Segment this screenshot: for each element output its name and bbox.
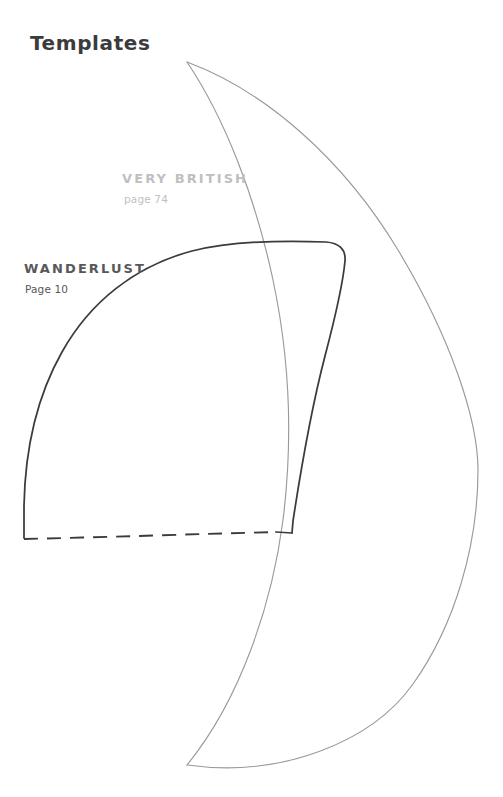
very-british-outer-arc [187, 62, 478, 768]
page-title: Templates [30, 31, 151, 55]
very-british-inner-arc [187, 62, 289, 765]
pattern-label-name: VERY BRITISH [122, 172, 248, 186]
pattern-artwork [0, 0, 503, 797]
pattern-label-page: page 74 [124, 194, 248, 206]
wanderlust-foot [276, 532, 292, 533]
templates-page: Templates VERY BRITISH page 74 WANDERLUS… [0, 0, 503, 797]
pattern-piece-very-british[interactable] [187, 62, 478, 768]
pattern-label-page: Page 10 [25, 284, 146, 296]
pattern-label-very-british: VERY BRITISH page 74 [122, 172, 248, 206]
pattern-label-wanderlust: WANDERLUST Page 10 [24, 262, 146, 296]
pattern-label-name: WANDERLUST [24, 262, 146, 276]
wanderlust-hem-dashed-line-icon [24, 532, 276, 539]
